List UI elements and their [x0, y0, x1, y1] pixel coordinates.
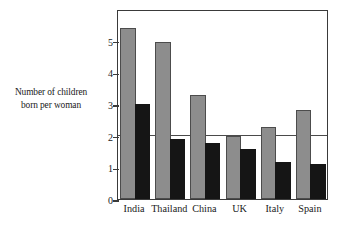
bar-spain-earlier [296, 110, 312, 199]
y-axis-tick [113, 74, 119, 75]
bar-italy-earlier [261, 127, 277, 199]
bar-thailand-earlier [155, 42, 171, 199]
x-axis-label-spain: Spain [298, 203, 321, 215]
y-axis-title-line-1: Number of children [2, 86, 100, 99]
y-axis-tick-label: 1 [108, 164, 113, 174]
bar-italy-later [275, 162, 291, 199]
y-axis-tick-label: 5 [108, 38, 113, 48]
y-axis-tick-label: 3 [108, 101, 113, 111]
bar-china-earlier [190, 95, 206, 200]
x-axis-label-uk: UK [232, 203, 247, 215]
y-axis-tick-label: 0 [108, 196, 113, 206]
y-axis-tick [113, 42, 119, 43]
bar-uk-later [240, 149, 256, 199]
plot-inner: 012345 [118, 11, 327, 199]
bar-uk-earlier [226, 136, 242, 199]
plot-area: 012345 [117, 10, 328, 200]
bar-spain-later [310, 164, 326, 199]
bar-china-later [205, 143, 221, 199]
y-axis-tick [113, 169, 119, 170]
y-axis-tick [113, 105, 119, 106]
bar-thailand-later [170, 139, 186, 199]
x-axis-label-china: China [192, 203, 216, 215]
x-axis-label-thailand: Thailand [151, 203, 187, 215]
y-axis-tick [113, 137, 119, 138]
fertility-bar-chart: Number of children born per woman 012345… [0, 0, 342, 235]
x-axis-label-india: India [124, 203, 145, 215]
x-axis-label-italy: Italy [265, 203, 284, 215]
bar-india-later [135, 104, 151, 199]
bar-india-earlier [120, 28, 136, 199]
y-axis-title-line-2: born per woman [2, 99, 100, 112]
y-axis-tick-label: 2 [108, 133, 113, 143]
y-axis-title: Number of children born per woman [2, 86, 100, 112]
y-axis-tick [113, 200, 119, 201]
y-axis-tick-label: 4 [108, 69, 113, 79]
